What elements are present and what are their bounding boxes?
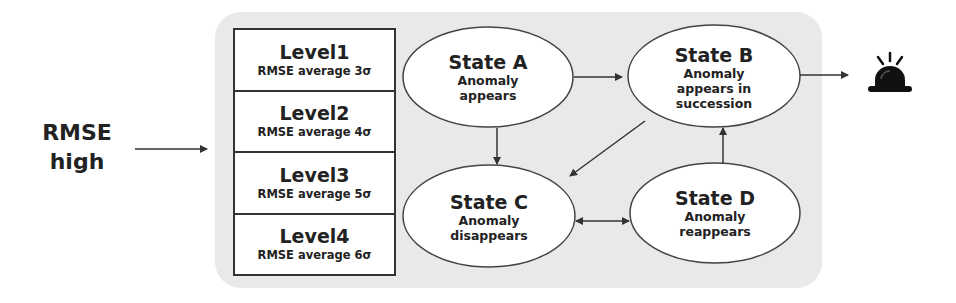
state-c-title: State C	[450, 191, 528, 213]
state-b-desc-2: appears in	[677, 81, 751, 96]
level-title: Level4	[280, 225, 350, 247]
state-b: State B Anomaly appears in succession	[628, 26, 800, 128]
state-d-desc-1: Anomaly	[684, 209, 745, 224]
state-a-desc-2: appears	[460, 88, 517, 103]
state-b-desc-3: succession	[676, 96, 752, 111]
state-b-desc-1: Anomaly	[683, 66, 744, 81]
level-desc: RMSE average 5σ	[258, 186, 372, 202]
state-d-title: State D	[675, 187, 755, 209]
level-row-4: Level4 RMSE average 6σ	[235, 215, 394, 275]
state-d: State D Anomaly reappears	[630, 163, 800, 263]
state-c-desc-1: Anomaly	[458, 213, 519, 228]
state-a-desc-1: Anomaly	[457, 73, 518, 88]
state-a: State A Anomaly appears	[403, 27, 573, 127]
level-row-3: Level3 RMSE average 5σ	[235, 153, 394, 215]
state-c-desc-2: disappears	[450, 228, 528, 243]
level-desc: RMSE average 4σ	[258, 124, 372, 140]
level-title: Level1	[280, 41, 350, 63]
level-title: Level3	[280, 164, 350, 186]
levels-table: Level1 RMSE average 3σ Level2 RMSE avera…	[233, 28, 396, 276]
state-c: State C Anomaly disappears	[403, 166, 575, 268]
state-d-desc-2: reappears	[679, 224, 751, 239]
level-desc: RMSE average 6σ	[258, 247, 372, 263]
alarm-siren-icon	[868, 53, 912, 92]
level-title: Level2	[280, 102, 350, 124]
state-b-title: State B	[675, 44, 754, 66]
level-row-2: Level2 RMSE average 4σ	[235, 92, 394, 154]
level-desc: RMSE average 3σ	[258, 63, 372, 79]
state-a-title: State A	[449, 51, 528, 73]
level-row-1: Level1 RMSE average 3σ	[235, 30, 394, 92]
